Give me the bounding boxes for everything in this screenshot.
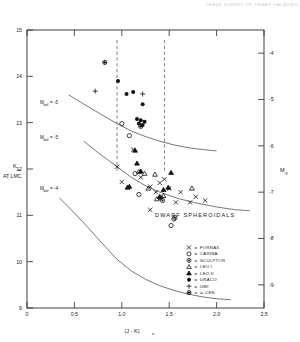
right-tick-label: -4	[269, 50, 274, 56]
legend-separator: =	[195, 245, 198, 250]
data-point-open-circle	[137, 192, 141, 196]
curve-label: Mbol= -5	[40, 135, 58, 142]
data-point-plus	[93, 89, 98, 94]
curve-label-subscript: bol	[43, 103, 48, 107]
bottom-tick-label: 2.5	[260, 311, 267, 317]
left-tick-label: 13	[16, 120, 22, 126]
data-point-open-triangle	[153, 172, 158, 176]
legend-label: LEO II	[200, 271, 214, 276]
left-tick-label: 14	[16, 73, 22, 79]
right-tick-label: -8	[269, 235, 274, 241]
sun-circle-icon	[187, 291, 191, 295]
legend-item-draco[interactable]: =DRACO	[187, 277, 217, 282]
left-axis-ticks	[27, 30, 33, 308]
right-axis-label-text: M	[280, 167, 285, 173]
data-point-sun-circle	[139, 124, 143, 128]
legend-item-umi[interactable]: =UMI	[187, 284, 209, 289]
data-point-cross-x	[162, 177, 166, 181]
data-point-open-circle	[169, 223, 173, 227]
legend-label: SCULPTOR	[200, 258, 225, 263]
bottom-tick-label: 2.0	[213, 311, 220, 317]
left-axis-label-text: K	[13, 163, 17, 169]
model-curves	[59, 95, 250, 300]
vertical-dashed-lines	[117, 40, 164, 171]
legend-separator: =	[195, 290, 198, 295]
data-point-filled-circle	[131, 90, 135, 94]
curve-label-value: = -4	[50, 186, 58, 191]
left-axis-caption: AT LMC	[3, 173, 22, 179]
legend-label: FORNAX	[200, 245, 219, 250]
data-point-filled-circle	[139, 118, 143, 122]
right-tick-label: -6	[269, 143, 274, 149]
data-point-plus	[140, 91, 145, 96]
right-tick-label: -9	[269, 282, 274, 288]
right-tick-label: -7	[269, 189, 274, 195]
bottom-axis-tick-labels: 00.51.01.52.02.5	[26, 311, 268, 317]
left-tick-label: 15	[16, 27, 22, 33]
bottom-tick-label: 0.5	[71, 311, 78, 317]
top-axis-ticks	[27, 30, 264, 36]
page-header-note: 2MASS SURVEY OF DWARF GALAXIES	[150, 2, 298, 7]
legend-label: ω CEN	[200, 290, 215, 295]
curve-label-subscript: bol	[43, 138, 48, 142]
right-axis-label-sub: K	[286, 172, 289, 176]
legend-item-carina[interactable]: =CARINA	[187, 251, 218, 256]
bottom-axis-label-sub: o	[152, 332, 154, 336]
data-point-cross-x	[139, 175, 143, 179]
bottom-axis-ticks	[27, 302, 264, 308]
legend: =FORNAX=CARINA=SCULPTOR=LEO I=LEO II=DRA…	[187, 245, 226, 295]
legend-item-fornax[interactable]: =FORNAX	[187, 245, 219, 250]
open-triangle-icon	[187, 265, 192, 269]
left-tick-label: 10	[16, 259, 22, 265]
legend-separator: =	[195, 277, 198, 282]
legend-item-leo-ii[interactable]: =LEO II	[187, 271, 214, 276]
bottom-tick-label: 0	[26, 311, 29, 317]
right-axis-ticks	[258, 53, 264, 285]
legend-label: DRACO	[200, 277, 217, 282]
legend-item-sculptor[interactable]: =SCULPTOR	[187, 258, 225, 263]
right-axis-tick-labels: -9-8-7-6-5-4	[269, 50, 274, 288]
bottom-tick-label: 1.5	[166, 311, 173, 317]
data-point-filled-circle	[135, 117, 139, 121]
data-point-cross-x	[158, 181, 162, 185]
filled-circle-icon	[187, 278, 191, 282]
curve-label-value: = -5	[50, 100, 58, 105]
curve-label-value: = -5	[50, 135, 58, 140]
bottom-tick-label: 1.0	[118, 311, 125, 317]
data-point-cross-x	[148, 208, 152, 212]
legend-label: UMI	[200, 284, 209, 289]
data-point-filled-triangle	[161, 187, 166, 191]
curve-label: Mbol= -5	[40, 100, 58, 107]
curve-labels: Mbol= -5Mbol= -5Mbol= -4	[40, 100, 58, 193]
cross-x-icon	[187, 246, 191, 250]
plus-icon	[187, 284, 192, 289]
data-point-filled-triangle	[169, 170, 174, 174]
right-axis-label: M K	[280, 167, 289, 176]
data-point-open-circle	[127, 134, 131, 138]
filled-triangle-icon	[187, 271, 192, 275]
data-point-filled-circle	[143, 120, 147, 124]
data-point-open-triangle	[190, 186, 195, 190]
data-point-cross-x	[188, 200, 192, 204]
curve-label: Mbol= -4	[40, 186, 58, 193]
left-tick-label: 9	[19, 305, 22, 311]
crossed-circle-icon	[187, 258, 191, 262]
data-point-open-circle	[120, 121, 124, 125]
data-point-filled-circle	[125, 92, 129, 96]
curve-label-subscript: bol	[43, 189, 48, 193]
legend-separator: =	[195, 271, 198, 276]
left-tick-label: 11	[17, 212, 22, 218]
figure-root: 2MASS SURVEY OF DWARF GALAXIES 910111213…	[0, 0, 300, 342]
data-point-filled-triangle	[135, 161, 140, 165]
data-point-filled-circle	[141, 102, 145, 106]
data-point-cross-x	[174, 200, 178, 204]
right-tick-label: -5	[269, 96, 274, 102]
legend-label: LEO I	[200, 264, 212, 269]
plot-title: DWARF SPHEROIDALS	[155, 212, 235, 218]
data-point-cross-x	[178, 190, 182, 194]
left-axis-label-sub: o	[18, 168, 20, 172]
legend-item-leo-i[interactable]: =LEO I	[187, 264, 213, 269]
legend-label: CARINA	[200, 251, 218, 256]
plot-frame	[27, 30, 264, 308]
bottom-axis-label: (J - K) o	[124, 328, 154, 336]
